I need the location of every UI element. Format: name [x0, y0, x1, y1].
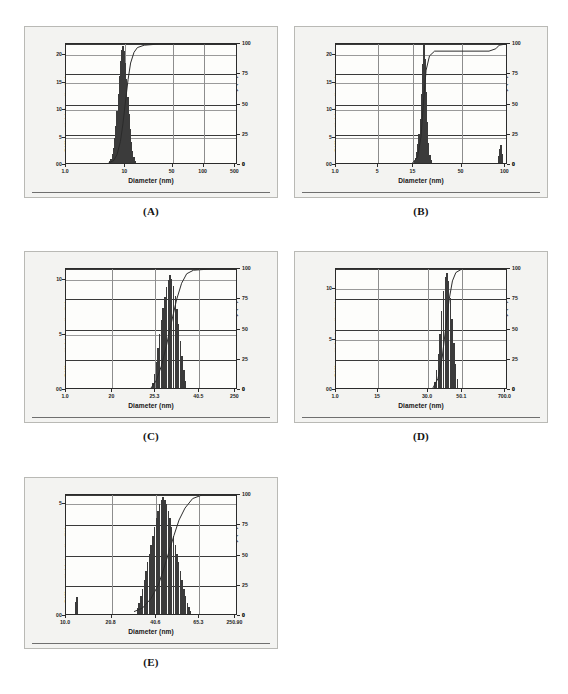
panel-c-caption: (C): [24, 430, 278, 442]
y-axis-right-tickmark: [237, 73, 240, 74]
cumulative-intensity-curve: [336, 269, 506, 388]
x-axis-tickmark: [234, 389, 235, 392]
panel-a: Differential Intensity (%)Cumulative Int…: [24, 26, 278, 217]
chart-d: Differential Intensity (%)Cumulative Int…: [299, 258, 543, 419]
x-axis-tick: 250.90: [226, 619, 242, 625]
x-axis-tickmark: [155, 615, 156, 618]
x-axis-tick: 1.0: [61, 393, 68, 399]
y-axis-left-tick: 5: [319, 134, 332, 140]
x-axis-tickmark: [65, 615, 66, 618]
y-axis-right-tick: 25: [512, 356, 518, 362]
y-axis-right-tickmark: [507, 389, 510, 390]
y-axis-right-tick: 100: [242, 40, 251, 46]
x-axis-tickmark: [335, 389, 336, 392]
chart-b: Differential Intensity (%)Cumulative Int…: [299, 33, 543, 194]
plot-area: [65, 268, 237, 389]
cumulative-intensity-curve: [66, 269, 236, 388]
y-axis-left-tickmark: [62, 137, 65, 138]
cumulative-intensity-curve: [336, 44, 506, 163]
y-axis-right-tickmark: [237, 104, 240, 105]
x-axis-tickmark: [234, 615, 235, 618]
x-axis-tickmark: [234, 164, 235, 167]
panel-bottom-rule: [302, 417, 540, 418]
x-axis-tick: 25.3: [149, 393, 159, 399]
x-axis-label: Diameter (nm): [29, 177, 273, 184]
panel-b-caption: (B): [294, 205, 548, 217]
x-axis-label: Diameter (nm): [299, 402, 543, 409]
y-axis-right-tick: 100: [512, 265, 521, 271]
x-axis-tick: 50.1: [456, 393, 466, 399]
panel-a-caption: (A): [24, 205, 278, 217]
y-axis-right-tickmark: [237, 298, 240, 299]
chart-e: Differential Intensity (%)Cumulative Int…: [29, 484, 273, 645]
x-axis-label: Diameter (nm): [299, 177, 543, 184]
y-axis-left-tickmark: [332, 288, 335, 289]
y-axis-left-tick: 5: [49, 134, 62, 140]
y-axis-left-tickmark: [62, 109, 65, 110]
origin-zero-right: 0: [242, 612, 245, 618]
y-axis-left-tickmark: [332, 82, 335, 83]
y-axis-left-tick: 20: [49, 51, 62, 57]
x-axis-tick: 1.0: [61, 168, 68, 174]
origin-zero-left: 0: [326, 386, 329, 392]
panel-d-caption: (D): [294, 430, 548, 442]
x-axis-tickmark: [335, 164, 336, 167]
panel-a-frame: Differential Intensity (%)Cumulative Int…: [24, 26, 278, 198]
x-axis-tickmark: [172, 164, 173, 167]
y-axis-left-tickmark: [332, 137, 335, 138]
x-axis-tickmark: [154, 389, 155, 392]
panel-bottom-rule: [32, 643, 270, 644]
x-axis-tick: 65.3: [193, 619, 203, 625]
panel-e-caption: (E): [24, 656, 278, 668]
y-axis-right-tick: 100: [512, 40, 521, 46]
x-axis-tickmark: [65, 164, 66, 167]
x-axis-tick: 10: [121, 168, 127, 174]
x-axis-tickmark: [198, 389, 199, 392]
x-axis-tickmark: [203, 164, 204, 167]
x-axis-tickmark: [504, 164, 505, 167]
x-axis-tickmark: [427, 389, 428, 392]
y-axis-right-tickmark: [507, 359, 510, 360]
panel-d: Differential Intensity (%)Cumulative Int…: [294, 251, 548, 442]
x-axis-label: Diameter (nm): [29, 402, 273, 409]
panel-bottom-rule: [302, 192, 540, 193]
y-axis-right-tickmark: [237, 389, 240, 390]
y-axis-left-tickmark: [62, 334, 65, 335]
y-axis-right-tickmark: [237, 359, 240, 360]
figure-particle-size-distributions: Differential Intensity (%)Cumulative Int…: [0, 0, 568, 694]
y-axis-right-tick: 50: [512, 101, 518, 107]
y-axis-left-tick: 15: [319, 79, 332, 85]
panel-d-frame: Differential Intensity (%)Cumulative Int…: [294, 251, 548, 423]
y-axis-left-tick: 5: [319, 336, 332, 342]
y-axis-left-tickmark: [332, 54, 335, 55]
y-axis-right-tickmark: [237, 555, 240, 556]
panel-c: Differential Intensity (%)Cumulative Int…: [24, 251, 278, 442]
x-axis-tickmark: [412, 164, 413, 167]
panel-e-frame: Differential Intensity (%)Cumulative Int…: [24, 477, 278, 649]
y-axis-right-tick: 50: [512, 326, 518, 332]
y-axis-right-tick: 25: [242, 582, 248, 588]
origin-zero-left: 0: [56, 161, 59, 167]
x-axis-tick: 500: [230, 168, 239, 174]
panel-bottom-rule: [32, 192, 270, 193]
y-axis-right-tick: 75: [242, 521, 248, 527]
x-axis-tick: 30.0: [422, 393, 432, 399]
y-axis-right-tick: 50: [242, 101, 248, 107]
y-axis-right-tickmark: [237, 615, 240, 616]
y-axis-right-tick: 25: [242, 131, 248, 137]
y-axis-left-tickmark: [332, 339, 335, 340]
x-axis-tickmark: [377, 164, 378, 167]
y-axis-right-tickmark: [507, 73, 510, 74]
y-axis-right-tickmark: [507, 298, 510, 299]
plot-area: [65, 43, 237, 164]
origin-zero-right: 0: [242, 386, 245, 392]
origin-zero-left: 0: [56, 386, 59, 392]
y-axis-left-tickmark: [62, 82, 65, 83]
y-axis-right-tickmark: [507, 43, 510, 44]
origin-zero-left: 0: [326, 161, 329, 167]
x-axis-tickmark: [377, 389, 378, 392]
x-axis-tick: 5: [376, 168, 379, 174]
y-axis-right-tick: 75: [512, 295, 518, 301]
x-axis-tick: 250: [230, 393, 239, 399]
x-axis-tickmark: [504, 389, 505, 392]
